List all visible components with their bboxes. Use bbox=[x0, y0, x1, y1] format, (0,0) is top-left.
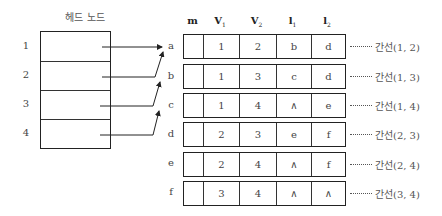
edge-node-label: f bbox=[166, 186, 176, 197]
edge-node-row: 2 3 e f bbox=[183, 122, 346, 147]
l1-cell: e bbox=[276, 123, 311, 146]
mark-cell bbox=[184, 94, 203, 117]
l1-cell: c bbox=[276, 65, 311, 88]
v2-cell: 3 bbox=[239, 65, 276, 88]
mark-cell bbox=[184, 123, 203, 146]
l2-cell: f bbox=[311, 153, 345, 176]
edge-node-label: d bbox=[166, 128, 176, 139]
column-header-l1: l1 bbox=[275, 15, 310, 28]
dotted-leader bbox=[350, 193, 372, 194]
column-header-m: m bbox=[183, 15, 202, 26]
v1-cell: 2 bbox=[203, 123, 239, 146]
dotted-leader bbox=[350, 134, 372, 135]
l2-cell: ∧ bbox=[311, 182, 345, 205]
l1-cell: b bbox=[276, 35, 311, 58]
edge-node-row: 1 2 b d bbox=[183, 34, 346, 59]
v1-cell: 1 bbox=[203, 65, 239, 88]
dotted-leader bbox=[350, 105, 372, 106]
pointer-arrow-2 bbox=[102, 52, 163, 77]
edge-name: 간선(3, 4) bbox=[375, 186, 420, 201]
v1-cell: 3 bbox=[203, 182, 239, 205]
v2-cell: 4 bbox=[239, 153, 276, 176]
dotted-leader bbox=[350, 76, 372, 77]
mark-cell bbox=[184, 182, 203, 205]
edge-node-label: a bbox=[166, 40, 176, 51]
column-header-v2: V2 bbox=[238, 15, 275, 28]
v2-cell: 2 bbox=[239, 35, 276, 58]
v2-cell: 4 bbox=[239, 94, 276, 117]
edge-node-label: e bbox=[166, 157, 176, 168]
l2-cell: d bbox=[311, 35, 345, 58]
dotted-leader bbox=[350, 46, 372, 47]
pointer-arrow-4 bbox=[100, 111, 159, 135]
edge-node-row: 1 3 c d bbox=[183, 64, 346, 89]
mark-cell bbox=[184, 153, 203, 176]
edge-node-row: 3 4 ∧ ∧ bbox=[183, 181, 346, 206]
v2-cell: 4 bbox=[239, 182, 276, 205]
mark-cell bbox=[184, 35, 203, 58]
l1-cell: ∧ bbox=[276, 153, 311, 176]
l2-cell: e bbox=[311, 94, 345, 117]
mark-cell bbox=[184, 65, 203, 88]
pointer-arrow-3 bbox=[100, 82, 160, 106]
edge-name: 간선(1, 4) bbox=[375, 98, 420, 113]
edge-node-row: 2 4 ∧ f bbox=[183, 152, 346, 177]
l1-cell: ∧ bbox=[276, 94, 311, 117]
dotted-leader bbox=[350, 164, 372, 165]
v1-cell: 1 bbox=[203, 94, 239, 117]
column-header-l2: l2 bbox=[310, 15, 344, 28]
edge-node-row: 1 4 ∧ e bbox=[183, 93, 346, 118]
edge-node-label: b bbox=[166, 70, 176, 81]
column-header-v1: V1 bbox=[202, 15, 238, 28]
edge-name: 간선(1, 2) bbox=[375, 39, 420, 54]
l2-cell: d bbox=[311, 65, 345, 88]
edge-name: 간선(1, 3) bbox=[375, 69, 420, 84]
l2-cell: f bbox=[311, 123, 345, 146]
edge-node-label: c bbox=[166, 99, 176, 110]
v1-cell: 1 bbox=[203, 35, 239, 58]
edge-name: 간선(2, 3) bbox=[375, 127, 420, 142]
l1-cell: ∧ bbox=[276, 182, 311, 205]
v1-cell: 2 bbox=[203, 153, 239, 176]
edge-name: 간선(2, 4) bbox=[375, 157, 420, 172]
v2-cell: 3 bbox=[239, 123, 276, 146]
